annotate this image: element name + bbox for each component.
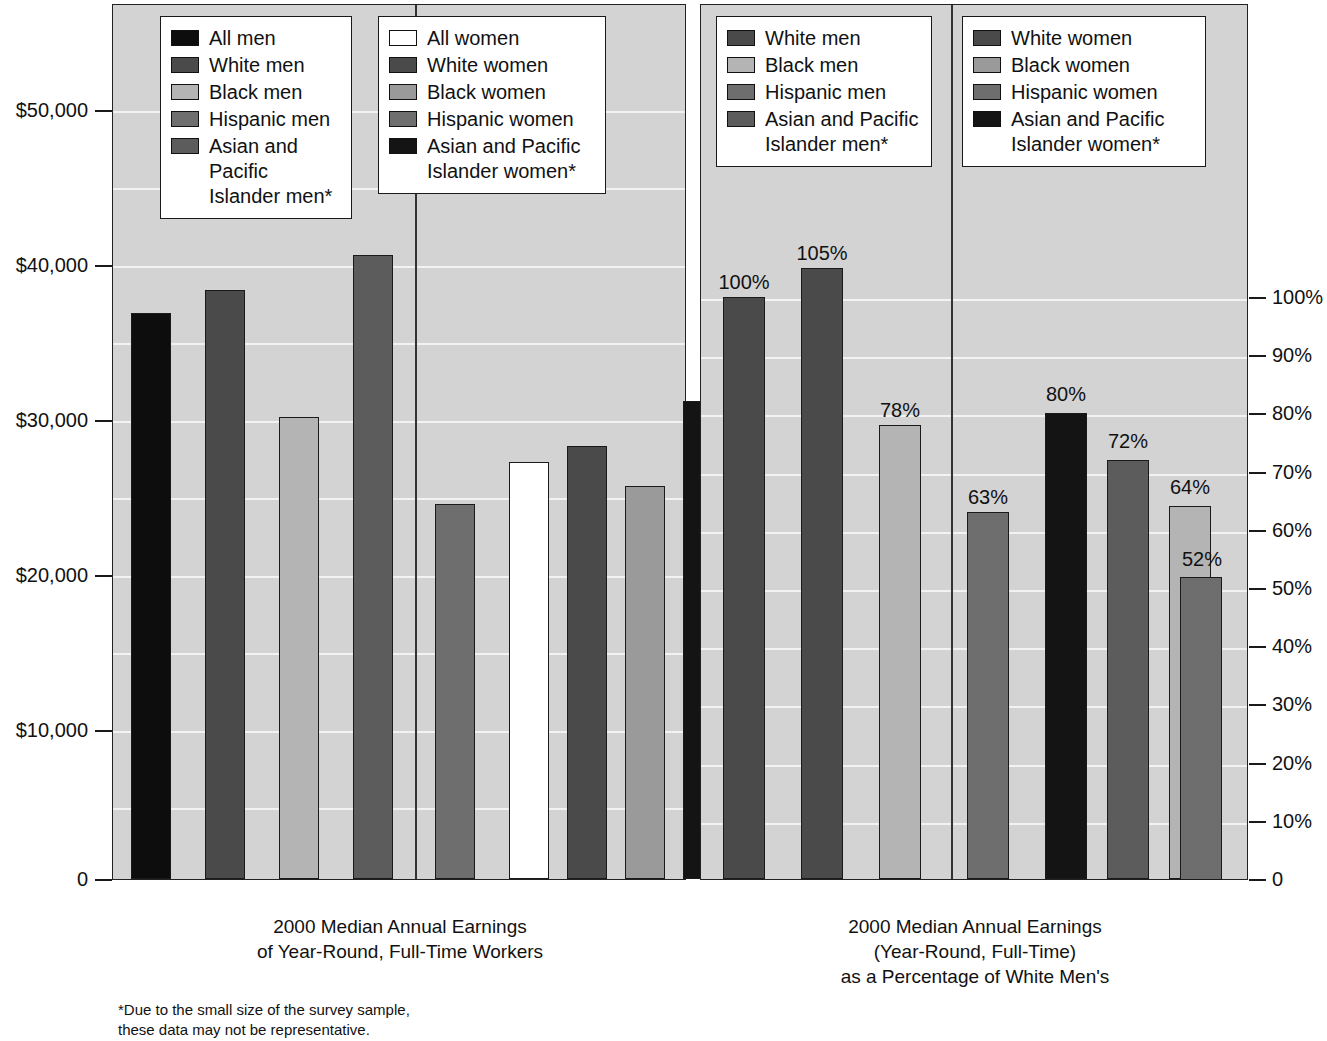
men-women-divider xyxy=(951,5,953,879)
ytick-10pct xyxy=(1249,821,1266,823)
legend-item: Black men xyxy=(171,80,339,105)
ylabel-30000: $30,000 xyxy=(0,410,88,430)
footnote: *Due to the small size of the survey sam… xyxy=(118,1000,678,1040)
ylabel-90pct: 90% xyxy=(1272,345,1327,365)
datalabel-hispanic-men-pct: 63% xyxy=(926,487,1050,507)
datalabel-asian-pacific-islander-men-pct: 105% xyxy=(760,243,884,263)
datalabel-asian-pacific-islander-women-pct: 80% xyxy=(1004,384,1128,404)
ylabel-10pct: 10% xyxy=(1272,811,1327,831)
legend-label: All women xyxy=(427,26,519,51)
legend-label: Asian and Pacific Islander women* xyxy=(427,134,580,184)
legend-swatch-hispanic-men xyxy=(727,84,755,100)
ytick-90pct xyxy=(1249,355,1266,357)
bar-white-men xyxy=(205,290,245,879)
ytick-100pct xyxy=(1249,297,1266,299)
ytick-30pct xyxy=(1249,704,1266,706)
ytick-30000 xyxy=(95,420,112,422)
legend-swatch-white-men xyxy=(727,30,755,46)
legend-men-left-chart: All men White men Black men Hispanic men… xyxy=(160,16,352,219)
legend-label: Asian and Pacific Islander men* xyxy=(765,107,918,157)
ylabel-0: 0 xyxy=(0,869,88,889)
datalabel-hispanic-women-pct: 52% xyxy=(1140,549,1264,569)
legend-item: White men xyxy=(727,26,919,51)
ylabel-100pct: 100% xyxy=(1272,287,1327,307)
ytick-40pct xyxy=(1249,646,1266,648)
legend-label: Asian and Pacific Islander women* xyxy=(1011,107,1164,157)
ytick-40000 xyxy=(95,265,112,267)
ylabel-40pct: 40% xyxy=(1272,636,1327,656)
gridline-80pct xyxy=(701,415,1247,417)
bar-black-men xyxy=(279,417,319,879)
ylabel-80pct: 80% xyxy=(1272,403,1327,423)
legend-item: Black women xyxy=(389,80,593,105)
bar-asian-pacific-islander-women-pct xyxy=(1045,413,1087,879)
ytick-10000 xyxy=(95,730,112,732)
legend-swatch-asian-pacific-islander-women xyxy=(973,111,1001,127)
legend-label: All men xyxy=(209,26,276,51)
legend-swatch-black-men xyxy=(171,84,199,100)
legend-label: White men xyxy=(765,26,861,51)
legend-item: Hispanic men xyxy=(727,80,919,105)
gridline-minor-35000 xyxy=(113,343,685,345)
legend-label: Hispanic men xyxy=(209,107,330,132)
legend-swatch-hispanic-men xyxy=(171,111,199,127)
ytick-60pct xyxy=(1249,530,1266,532)
bar-asian-pacific-islander-men xyxy=(435,504,475,879)
legend-swatch-all-men xyxy=(171,30,199,46)
ytick-20pct xyxy=(1249,763,1266,765)
ylabel-60pct: 60% xyxy=(1272,520,1327,540)
right-chart-caption: 2000 Median Annual Earnings (Year-Round,… xyxy=(700,914,1250,989)
legend-label: Black women xyxy=(1011,53,1130,78)
gridline-40000 xyxy=(113,266,685,268)
legend-label: Hispanic women xyxy=(1011,80,1158,105)
legend-item: White women xyxy=(389,53,593,78)
legend-item: Hispanic men xyxy=(171,107,339,132)
ylabel-50000: $50,000 xyxy=(0,100,88,120)
gridline-100pct xyxy=(701,299,1247,301)
ytick-50000 xyxy=(95,110,112,112)
legend-swatch-hispanic-women xyxy=(973,84,1001,100)
legend-swatch-black-women xyxy=(973,57,1001,73)
legend-label: Black women xyxy=(427,80,546,105)
ylabel-40000: $40,000 xyxy=(0,255,88,275)
ytick-80pct xyxy=(1249,413,1266,415)
bar-black-women xyxy=(625,486,665,879)
legend-women-right-chart: White women Black women Hispanic women A… xyxy=(962,16,1206,167)
legend-label: Asian and Pacific Islander men* xyxy=(209,134,339,209)
legend-swatch-black-men xyxy=(727,57,755,73)
bar-hispanic-men xyxy=(353,255,393,879)
legend-item: Asian and Pacific Islander women* xyxy=(389,134,593,184)
legend-item: White women xyxy=(973,26,1193,51)
bar-all-women xyxy=(509,462,549,879)
ytick-20000 xyxy=(95,575,112,577)
bar-white-women-pct xyxy=(1107,460,1149,879)
ylabel-50pct: 50% xyxy=(1272,578,1327,598)
legend-swatch-hispanic-women xyxy=(389,111,417,127)
legend-swatch-white-women xyxy=(973,30,1001,46)
legend-men-right-chart: White men Black men Hispanic men Asian a… xyxy=(716,16,932,167)
legend-item: Asian and Pacific Islander men* xyxy=(171,134,339,209)
bar-all-men xyxy=(131,313,171,879)
datalabel-white-men-pct: 100% xyxy=(682,272,806,292)
bar-black-men-pct xyxy=(879,425,921,879)
legend-item: Asian and Pacific Islander women* xyxy=(973,107,1193,157)
ytick-70pct xyxy=(1249,472,1266,474)
legend-swatch-all-women xyxy=(389,30,417,46)
legend-women-left-chart: All women White women Black women Hispan… xyxy=(378,16,606,194)
gridline-70pct xyxy=(701,474,1247,476)
ylabel-10000: $10,000 xyxy=(0,720,88,740)
legend-label: Black men xyxy=(209,80,302,105)
legend-item: Hispanic women xyxy=(973,80,1193,105)
ylabel-30pct: 30% xyxy=(1272,694,1327,714)
bar-white-women xyxy=(567,446,607,879)
gridline-90pct xyxy=(701,357,1247,359)
left-chart-caption: 2000 Median Annual Earnings of Year-Roun… xyxy=(112,914,688,964)
bar-white-men-pct xyxy=(723,297,765,879)
ytick-0 xyxy=(95,879,112,881)
legend-label: White women xyxy=(427,53,548,78)
ytick-0pct xyxy=(1249,879,1266,881)
legend-item: Asian and Pacific Islander men* xyxy=(727,107,919,157)
ylabel-0pct: 0 xyxy=(1272,869,1327,889)
legend-item: Black women xyxy=(973,53,1193,78)
